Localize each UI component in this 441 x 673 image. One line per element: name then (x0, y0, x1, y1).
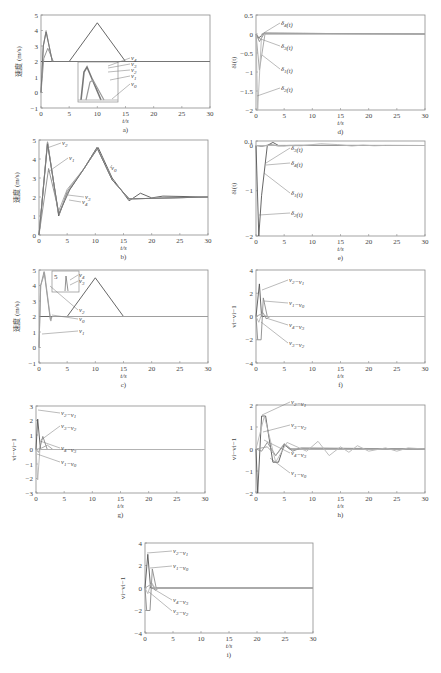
y-tick-label: 3 (35, 43, 39, 51)
x-tick-label: 30 (205, 365, 213, 373)
legend-leader (261, 322, 288, 343)
series-line (145, 585, 313, 594)
x-tick-label: 25 (393, 365, 401, 373)
y-tick-label: 2 (35, 58, 39, 66)
y-tick-label: −1 (246, 187, 254, 195)
x-tick-label: 25 (393, 112, 401, 120)
y-tick-label: 5 (33, 137, 37, 145)
x-tick-label: 20 (365, 112, 373, 120)
y-axis-label: δi(t) (230, 182, 238, 195)
x-tick-label: 0 (254, 112, 258, 120)
legend-leader (266, 163, 290, 165)
x-tick-label: 5 (282, 238, 286, 246)
y-tick-label: 0 (250, 313, 254, 321)
x-tick-label: 30 (422, 365, 430, 373)
y-tick-label: −1 (29, 360, 37, 368)
plot-frame (256, 15, 425, 110)
legend-leader (150, 566, 172, 568)
x-tick-label: 25 (176, 365, 184, 373)
x-tick-label: 0 (143, 635, 147, 643)
legend-leader (262, 55, 280, 69)
chart-panel-c: 051015202530−1012345t/s速度 (m/s)c)5v4v3v2… (12, 267, 212, 390)
y-tick-label: −2 (26, 475, 34, 483)
panel-caption: b) (121, 253, 128, 261)
series-line (39, 142, 208, 235)
x-tick-label: 5 (282, 112, 286, 120)
inset-box (78, 62, 118, 102)
x-tick-label: 25 (393, 495, 401, 503)
x-tick-label: 20 (365, 495, 373, 503)
legend-label: v2 (79, 306, 85, 315)
series-line (145, 554, 313, 588)
plot-frame (256, 141, 425, 236)
legend-leader (152, 588, 172, 600)
y-tick-label: 1 (35, 74, 39, 82)
series-line (39, 142, 208, 235)
legend-label: v3−v2 (173, 607, 189, 617)
y-tick-label: −4 (246, 360, 254, 368)
x-tick-label: 25 (176, 237, 184, 245)
x-tick-label: 10 (92, 237, 100, 245)
chart-panel-f: 051015202530−4−2024t/svi−vi−1f)v2−v1v1−v… (230, 267, 429, 390)
legend-leader (69, 200, 81, 202)
y-tick-label: 2 (250, 402, 254, 410)
legend-label: δ2(t) (281, 84, 293, 94)
chart-panel-g: 051015202530−3−2−10123t/svi−vi−1g)v2−v1v… (10, 403, 209, 520)
y-tick-label: −1 (246, 468, 254, 476)
legend-label: δ3(t) (291, 144, 303, 154)
legend-leader (262, 23, 280, 34)
legend-leader (264, 173, 290, 193)
legend-label: δ2(t) (291, 209, 303, 219)
y-tick-label: 2 (30, 417, 34, 425)
x-tick-label: 25 (393, 238, 401, 246)
series-line (145, 569, 313, 611)
legend-label: v2−v1 (173, 547, 188, 557)
x-axis-label: t/s (337, 245, 344, 253)
panel-caption: d) (338, 128, 345, 136)
x-tick-label: 0 (34, 495, 38, 503)
series-line (41, 32, 210, 93)
y-tick-label: 1 (33, 213, 37, 221)
y-axis-label: 速度 (m/s) (12, 172, 21, 203)
y-tick-label: 2 (33, 194, 37, 202)
y-axis-label: vi−vi−1 (230, 437, 238, 460)
svg-text:5: 5 (54, 273, 58, 281)
chart-panel-b: 051015202530012345t/s速度 (m/s)b)v2v1v0v3v… (12, 137, 212, 262)
legend-label: v3−v2 (291, 421, 307, 431)
legend-leader (41, 426, 60, 440)
y-tick-label: 3 (33, 175, 37, 183)
x-tick-label: 10 (309, 238, 317, 246)
x-axis-label: t/s (337, 372, 344, 380)
legend-label: v1−v0 (291, 469, 307, 479)
x-tick-label: 0 (37, 237, 41, 245)
series-line (39, 144, 208, 235)
x-axis-label: t/s (226, 642, 233, 650)
y-axis-label: vi−vi−1 (119, 576, 127, 599)
series-line (256, 298, 425, 340)
x-tick-label: 25 (178, 110, 186, 118)
y-tick-label: 2 (33, 313, 37, 321)
y-tick-label: 0 (250, 31, 254, 39)
legend-label: v1−v0 (61, 458, 77, 468)
y-tick-label: 0 (33, 344, 37, 352)
y-tick-label: −4 (135, 630, 143, 638)
y-axis-label: 速度 (m/s) (12, 301, 21, 332)
legend-label: δ1(t) (281, 65, 293, 75)
legend-label: v3−v2 (61, 422, 77, 432)
series-line (256, 142, 425, 236)
x-tick-label: 0 (254, 365, 258, 373)
x-tick-label: 10 (309, 365, 317, 373)
x-tick-label: 10 (309, 495, 317, 503)
legend-label: v1−v0 (173, 562, 189, 572)
series-line (256, 33, 425, 41)
legend-label: δ1(t) (291, 189, 303, 199)
legend-label: δ4(t) (291, 159, 303, 169)
x-tick-label: 10 (92, 365, 100, 373)
x-tick-label: 5 (282, 365, 286, 373)
x-axis-label: t/s (337, 119, 344, 127)
legend-leader (259, 213, 290, 215)
chart-panel-a: 051015202530−1012345t/s速度 (m/s)a)v4v3v2v… (14, 12, 214, 135)
x-axis-label: t/s (120, 372, 127, 380)
y-axis-label: 速度 (m/s) (14, 46, 23, 77)
x-tick-label: 20 (254, 635, 262, 643)
